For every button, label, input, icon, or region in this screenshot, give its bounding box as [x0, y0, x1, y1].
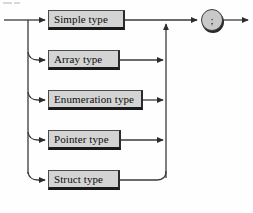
node-pointer-type[interactable]: Pointer type — [48, 130, 121, 150]
branch-enumeration-type — [28, 92, 45, 100]
node-struct-type[interactable]: Struct type — [48, 170, 120, 190]
branch-array-type — [28, 52, 45, 60]
syntax-diagram: Simple type Array type Enumeration type … — [0, 0, 253, 213]
node-label: Array type — [54, 54, 102, 65]
branch-struct-type — [28, 172, 45, 180]
node-label: Struct type — [54, 174, 103, 185]
node-label: Pointer type — [54, 134, 109, 145]
node-simple-type[interactable]: Simple type — [48, 10, 125, 30]
node-label: Simple type — [54, 14, 108, 25]
line-struct-to-merge — [120, 171, 166, 180]
node-array-type[interactable]: Array type — [48, 50, 120, 70]
node-label: Enumeration type — [54, 94, 134, 105]
node-enumeration-type[interactable]: Enumeration type — [48, 90, 143, 110]
terminal-label: ; — [210, 15, 213, 26]
node-semicolon-terminal[interactable]: ; — [201, 9, 223, 31]
branch-pointer-type — [28, 132, 45, 140]
